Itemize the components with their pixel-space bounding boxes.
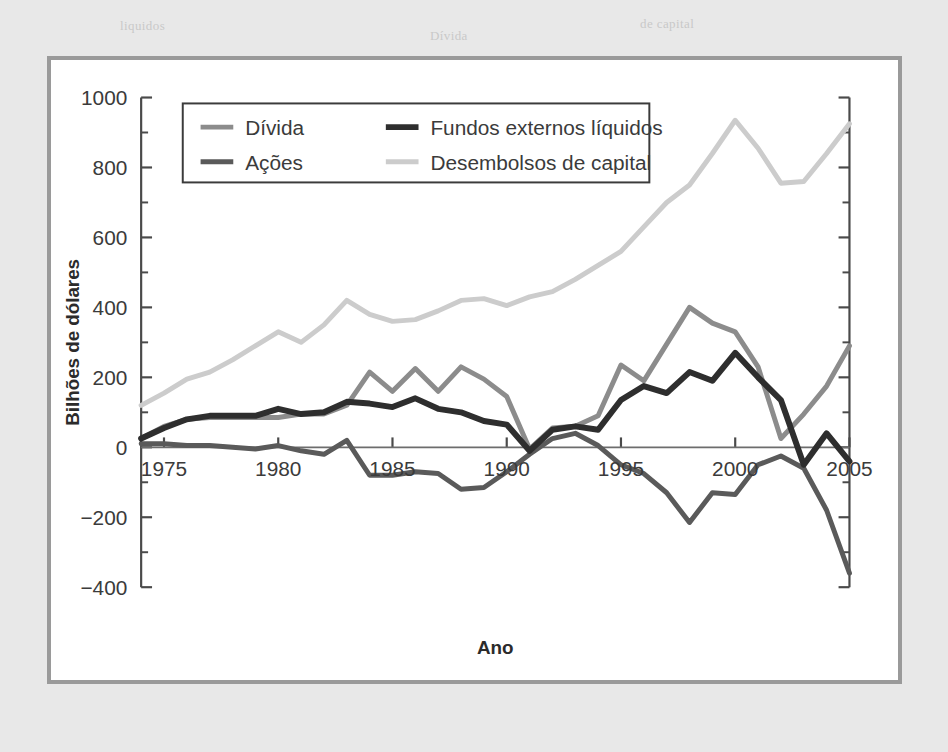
y-tick-label: 1000 [81, 86, 127, 109]
x-tick-label: 2005 [826, 457, 872, 480]
x-tick-label: 1990 [484, 457, 530, 480]
x-tick-label: 1975 [141, 457, 187, 480]
y-tick-label: 0 [116, 436, 128, 459]
legend-label: Dívida [245, 116, 304, 139]
series-group [141, 120, 849, 573]
bleed-text-line: Dívida [430, 28, 468, 44]
x-tick-label: 2000 [712, 457, 758, 480]
x-axis-title: Ano [477, 637, 514, 658]
y-tick-label: 800 [93, 156, 128, 179]
y-tick-label: 600 [93, 226, 128, 249]
legend-label: Desembolsos de capital [430, 151, 651, 174]
chart-legend: DívidaAçõesFundos externos líquidosDesem… [183, 103, 663, 182]
y-tick-label: 400 [93, 296, 128, 319]
y-tick-label: 200 [93, 366, 128, 389]
bleed-text-line: liquidos [120, 18, 165, 34]
legend-label: Ações [245, 151, 303, 174]
series-line-1 [141, 433, 849, 573]
y-tick-label: −400 [80, 576, 127, 599]
chart-panel: 1975198019851990199520002005 10008006004… [47, 56, 902, 684]
line-chart: 1975198019851990199520002005 10008006004… [51, 60, 898, 680]
x-tick-label: 1995 [598, 457, 644, 480]
y-axis-title: Bilhões de dólares [62, 259, 83, 426]
plot-area: 1975198019851990199520002005 10008006004… [51, 60, 898, 680]
y-tick-labels: 10008006004002000−200−400 [80, 86, 127, 599]
y-tick-label: −200 [80, 506, 127, 529]
bleed-text-line: de capital [640, 16, 694, 32]
x-tick-label: 1985 [369, 457, 415, 480]
legend-label: Fundos externos líquidos [430, 116, 662, 139]
series-line-0 [141, 307, 849, 449]
x-tick-label: 1980 [255, 457, 301, 480]
